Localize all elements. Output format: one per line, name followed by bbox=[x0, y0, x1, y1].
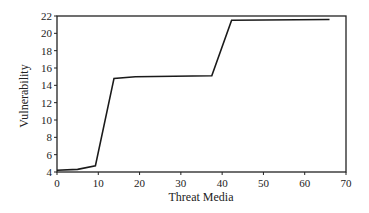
x-axis-label: Threat Media bbox=[169, 190, 235, 204]
x-tick-label: 40 bbox=[217, 177, 229, 189]
x-tick-label: 0 bbox=[54, 177, 60, 189]
y-tick-label: 4 bbox=[47, 166, 53, 178]
x-tick-label: 50 bbox=[258, 177, 270, 189]
y-tick-label: 18 bbox=[41, 45, 53, 57]
line-chart: 46810121416182022 010203040506070 Threat… bbox=[0, 0, 369, 213]
y-tick-label: 14 bbox=[41, 79, 53, 91]
x-tick-label: 10 bbox=[93, 177, 105, 189]
y-tick-label: 6 bbox=[47, 149, 53, 161]
y-tick-label: 22 bbox=[41, 10, 52, 22]
y-tick-label: 16 bbox=[41, 62, 53, 74]
y-axis-label: Vulnerability bbox=[17, 64, 31, 127]
y-tick-label: 20 bbox=[41, 27, 53, 39]
x-tick-label: 60 bbox=[299, 177, 311, 189]
x-tick-label: 30 bbox=[175, 177, 187, 189]
y-axis-ticks: 46810121416182022 bbox=[41, 10, 57, 178]
y-tick-label: 12 bbox=[41, 97, 52, 109]
y-tick-label: 10 bbox=[41, 114, 53, 126]
x-axis-ticks: 010203040506070 bbox=[54, 172, 352, 189]
x-tick-label: 70 bbox=[341, 177, 353, 189]
x-tick-label: 20 bbox=[134, 177, 146, 189]
data-series-line bbox=[57, 20, 330, 171]
y-tick-label: 8 bbox=[47, 131, 53, 143]
plot-frame bbox=[57, 16, 346, 172]
